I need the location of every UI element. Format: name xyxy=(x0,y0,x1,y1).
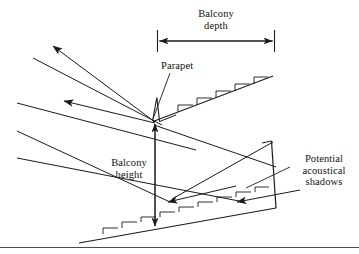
balcony-depth-dimension xyxy=(158,30,275,52)
balcony-depth-label: Balcony depth xyxy=(152,8,280,31)
lower-seat-steps xyxy=(103,187,269,234)
upper-floor-rake-line xyxy=(153,76,273,122)
diagram-canvas xyxy=(0,0,359,254)
parapet-leader-line xyxy=(153,73,170,119)
potential-acoustical-shadows-label: Potential acoustical shadows xyxy=(292,153,356,188)
under-balcony-ray-upper xyxy=(154,125,276,167)
shadows-leader-line xyxy=(246,167,290,188)
balcony-acoustics-diagram: Balcony depth Parapet Balcony height Pot… xyxy=(0,0,359,254)
balcony-soffit-right xyxy=(262,141,272,143)
lower-floor-rake-line xyxy=(79,208,276,243)
direct-ray-to-balcony-front xyxy=(33,58,162,125)
parapet-label: Parapet xyxy=(161,60,231,72)
balcony-height-label: Balcony height xyxy=(96,157,162,180)
upper-balcony-floor xyxy=(153,76,273,122)
